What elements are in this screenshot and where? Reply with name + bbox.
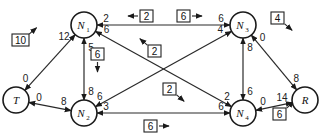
node-label: R — [301, 94, 309, 106]
flow-box: 2 — [163, 83, 184, 101]
node-n2: N2 — [71, 100, 97, 126]
capacity-label: 8 — [88, 86, 94, 97]
flow-box: 4 — [271, 12, 292, 30]
capacity-label: 6 — [218, 101, 224, 112]
flow-box: 6 — [177, 10, 202, 22]
capacity-label: 6 — [97, 91, 103, 102]
node-n1: N1 — [71, 12, 97, 38]
node-label: N — [235, 19, 244, 31]
capacity-label: 2 — [224, 91, 230, 102]
flow-value: 2 — [144, 11, 150, 22]
capacity-label: 4 — [218, 24, 224, 35]
capacity-label: 8 — [61, 96, 67, 107]
capacity-label: 6 — [247, 86, 253, 97]
capacity-label: 14 — [276, 92, 288, 103]
flow-value: 10 — [15, 35, 27, 46]
node-r: R — [292, 87, 318, 113]
capacity-label: 0 — [260, 96, 266, 107]
node-n4: N4 — [230, 100, 256, 126]
node-label: N — [76, 107, 85, 119]
edge-t-n1 — [25, 35, 76, 91]
capacity-label: 3 — [103, 101, 109, 112]
flow-box: 2 — [140, 39, 161, 57]
flow-value: 6 — [181, 11, 187, 22]
capacity-label: 12 — [58, 31, 70, 42]
flow-value: 2 — [167, 84, 173, 95]
flow-value: 2 — [152, 46, 158, 57]
node-label: N — [235, 107, 244, 119]
flow-direction-arrow-icon — [140, 39, 148, 46]
capacity-label: 6 — [218, 13, 224, 24]
capacity-label: 8 — [294, 73, 300, 84]
node-subscript: 1 — [86, 26, 90, 34]
node-subscript: 3 — [245, 26, 249, 34]
flow-direction-arrow-icon — [285, 24, 293, 31]
node-subscript: 2 — [86, 114, 90, 122]
flow-value: 6 — [277, 109, 283, 120]
node-t: T — [3, 87, 29, 113]
node-label: T — [13, 94, 20, 106]
flow-direction-arrow-icon — [177, 95, 185, 102]
capacity-label: 0 — [260, 32, 266, 43]
flow-value: 6 — [95, 49, 101, 60]
node-label: N — [76, 19, 85, 31]
capacity-label: 6 — [104, 24, 110, 35]
capacity-label: 8 — [247, 42, 253, 53]
flow-value: 4 — [275, 13, 281, 24]
capacity-label: 2 — [103, 13, 109, 24]
node-n3: N3 — [230, 12, 256, 38]
flow-box: 2 — [128, 10, 153, 22]
capacity-label: 0 — [23, 73, 29, 84]
flow-direction-arrow-icon — [29, 28, 37, 35]
flow-box: 10 — [12, 28, 37, 46]
flow-box: 6 — [144, 120, 169, 132]
capacity-label: 0 — [36, 92, 42, 103]
flow-box: 6 — [91, 48, 104, 72]
flow-network-diagram: 0120826586264368608014 1026624266 TN1N2N… — [0, 0, 326, 135]
flow-value: 6 — [148, 121, 154, 132]
node-subscript: 4 — [245, 114, 249, 122]
edge-n3-r — [251, 35, 296, 90]
